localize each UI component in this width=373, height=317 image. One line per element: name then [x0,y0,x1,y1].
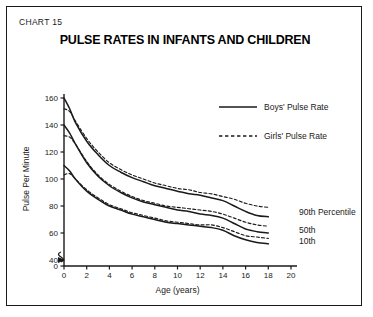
percentile-label-10: 10th [299,236,316,246]
y-tick-label-40: 40 [49,256,58,265]
y-tick-label-60: 60 [49,229,58,238]
curve-girls-p90 [64,109,268,208]
x-tick-label-18: 18 [264,271,273,280]
legend-label-boys: Boys' Pulse Rate [264,102,329,112]
y-tick-label-120: 120 [45,148,59,157]
pulse-rate-line-chart: 0406080100120140160Pulse Per Minute02468… [7,7,363,307]
legend-label-girls: Girls' Pulse Rate [264,131,327,141]
percentile-label-50: 50th [299,225,316,235]
x-tick-label-12: 12 [196,271,205,280]
x-axis-title: Age (years) [156,285,200,295]
y-tick-label-80: 80 [49,202,58,211]
percentile-label-90: 90th Percentile [299,207,356,217]
y-axis-title: Pulse Per Minute [21,146,31,211]
x-tick-label-4: 4 [107,271,112,280]
x-tick-label-2: 2 [84,271,89,280]
curve-girls-p10 [64,173,268,238]
y-tick-label-100: 100 [45,175,59,184]
curve-girls-p50 [64,136,268,226]
curve-boys-p50 [64,125,268,233]
x-tick-label-16: 16 [241,271,250,280]
y-tick-label-140: 140 [45,121,59,130]
x-tick-label-10: 10 [173,271,182,280]
chart-frame: CHART 15 PULSE RATES IN INFANTS AND CHIL… [6,6,362,306]
x-tick-label-14: 14 [218,271,227,280]
y-tick-label-160: 160 [45,94,59,103]
x-tick-label-20: 20 [287,271,296,280]
x-tick-label-6: 6 [130,271,135,280]
x-tick-label-8: 8 [153,271,158,280]
x-tick-label-0: 0 [62,271,67,280]
curve-boys-p10 [64,166,268,244]
curve-boys-p90 [64,98,268,217]
